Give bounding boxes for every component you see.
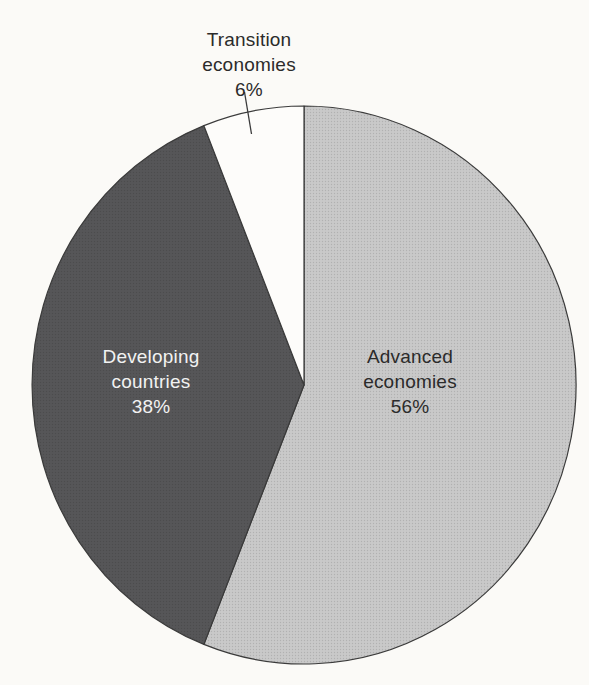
pie-chart [0,0,589,685]
pie-chart-figure: Advanced economies 56% Developing countr… [0,0,589,685]
